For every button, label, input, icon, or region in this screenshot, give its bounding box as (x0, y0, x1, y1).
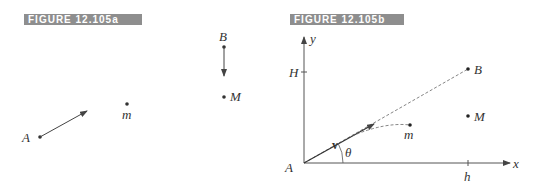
point-big-m-label: M (229, 89, 242, 104)
diagram-canvas: A m B M y x H h A v θ m B M (0, 0, 539, 191)
point-big-m-dot (466, 114, 470, 118)
y-axis-label: y (308, 31, 316, 46)
point-big-m-dot (222, 95, 226, 99)
angle-arc (338, 143, 343, 163)
point-b-label: B (474, 62, 482, 77)
x-axis-label: x (512, 156, 519, 171)
origin-a-label: A (284, 160, 293, 175)
point-m-dot (125, 102, 129, 106)
vector-label: v (332, 138, 338, 152)
angle-label: θ (345, 145, 352, 160)
tick-label-h: h (464, 169, 471, 184)
figure-b: y x H h A v θ m B M (284, 31, 519, 184)
point-b-label: B (219, 29, 227, 44)
tick-label-big-h: H (288, 65, 299, 80)
point-m-label: m (404, 127, 413, 142)
point-b-dot (466, 67, 470, 71)
point-m-label: m (122, 107, 131, 122)
point-a-label: A (21, 130, 30, 145)
point-big-m-label: M (473, 109, 486, 124)
velocity-arrow (40, 111, 87, 137)
velocity-vector (304, 124, 374, 163)
figure-a: A m B M (21, 29, 242, 145)
